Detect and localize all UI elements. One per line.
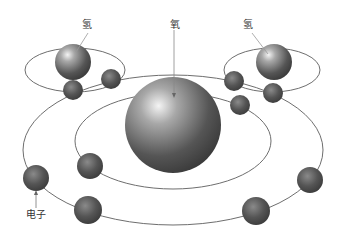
electron <box>242 197 270 225</box>
electron <box>63 80 83 100</box>
electron <box>230 95 250 115</box>
electron <box>23 165 49 191</box>
hydrogen-right-nucleus <box>256 44 292 80</box>
electron-label: 电子 <box>26 210 46 220</box>
electron <box>297 167 323 193</box>
electron <box>74 196 102 224</box>
hydrogen-right-label: 氢 <box>243 20 253 30</box>
electron <box>101 69 121 89</box>
water-molecule-diagram: 氢 氧 氢 电子 <box>0 0 344 246</box>
hydrogen-left-nucleus <box>55 44 91 80</box>
electron <box>77 153 103 179</box>
electron <box>224 71 244 91</box>
oxygen-nucleus <box>125 77 221 173</box>
diagram-canvas <box>0 0 344 246</box>
hydrogen-left-label: 氢 <box>82 20 92 30</box>
electron <box>263 83 283 103</box>
oxygen-label: 氧 <box>170 20 180 30</box>
